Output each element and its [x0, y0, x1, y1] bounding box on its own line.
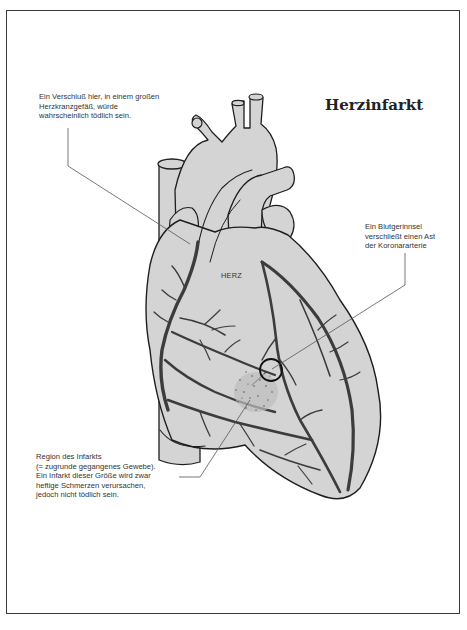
figure-title: Herzinfarkt — [325, 96, 423, 114]
annotation-major-vessel-occlusion: Ein Verschluß hier, in einem großen Herz… — [39, 92, 159, 121]
aorta-branch-opening-3 — [192, 118, 202, 128]
aorta-branch-opening-2 — [249, 94, 263, 100]
annotation-infarct-region: Region des Infarkts (= zugrunde gegangen… — [36, 452, 156, 500]
aorta-branch-opening-1 — [232, 100, 244, 105]
annotation-blood-clot: Ein Blutgerinnsel verschließt einen Ast … — [365, 222, 435, 251]
heart-label: HERZ — [221, 271, 242, 281]
